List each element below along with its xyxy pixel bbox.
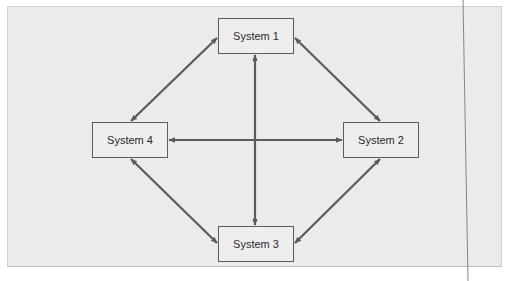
node-system-2: System 2 bbox=[343, 122, 419, 158]
node-system-4: System 4 bbox=[92, 122, 168, 158]
page-edge-line bbox=[463, 0, 468, 281]
node-label: System 1 bbox=[233, 30, 279, 42]
node-system-1: System 1 bbox=[218, 18, 294, 54]
node-label: System 3 bbox=[233, 238, 279, 250]
node-label: System 2 bbox=[358, 134, 404, 146]
node-system-3: System 3 bbox=[218, 226, 294, 262]
node-label: System 4 bbox=[107, 134, 153, 146]
arrow-system1-system2 bbox=[295, 38, 380, 121]
arrow-system2-system3 bbox=[295, 159, 380, 243]
arrow-system4-system3 bbox=[131, 159, 217, 243]
arrow-system1-system4 bbox=[131, 38, 217, 121]
